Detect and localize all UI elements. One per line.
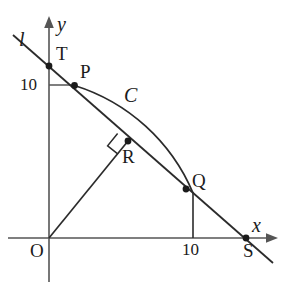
- label-point-s: S: [243, 241, 254, 260]
- label-origin: O: [30, 241, 44, 260]
- y-axis: [44, 16, 54, 282]
- label-point-q: Q: [192, 171, 206, 190]
- point-dot-q: [183, 186, 190, 193]
- label-point-p: P: [80, 62, 91, 81]
- point-dot-t: [46, 63, 53, 70]
- label-line-l: l: [19, 29, 25, 49]
- label-point-r: R: [122, 147, 135, 166]
- geometry-figure: l y x T P C R Q S 10 10 O: [0, 0, 289, 287]
- point-dot-p: [71, 82, 78, 89]
- right-angle-marker: [108, 134, 118, 155]
- label-axis-x: x: [252, 215, 261, 235]
- segment-or: [49, 141, 128, 238]
- label-point-t: T: [56, 44, 68, 63]
- label-curve-c: C: [124, 85, 137, 105]
- line-l: [13, 35, 273, 263]
- label-y-tick-10: 10: [20, 76, 37, 93]
- label-x-tick-10: 10: [182, 241, 199, 258]
- label-axis-y: y: [57, 14, 66, 34]
- point-dot-r: [125, 138, 132, 145]
